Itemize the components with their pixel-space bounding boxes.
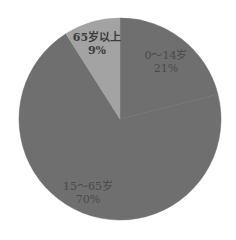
slice-label-65-plus-value: 9%: [73, 44, 121, 57]
slice-label-65-plus-name: 65岁以上: [73, 31, 121, 44]
slice-label-15-65-value: 70%: [63, 193, 113, 206]
slice-label-0-14-name: 0～14岁: [145, 49, 188, 62]
slice-label-15-65: 15～65岁 70%: [63, 180, 113, 206]
slice-label-65-plus: 65岁以上 9%: [73, 31, 121, 57]
slice-label-0-14: 0～14岁 21%: [145, 49, 188, 75]
slice-label-15-65-name: 15～65岁: [63, 180, 113, 193]
slice-label-0-14-value: 21%: [145, 62, 188, 75]
